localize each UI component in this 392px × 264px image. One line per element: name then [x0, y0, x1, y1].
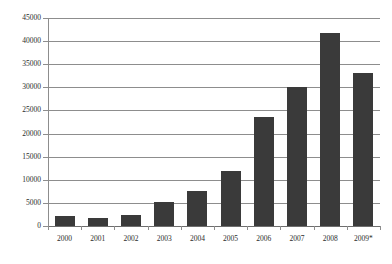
y-axis-tick	[43, 180, 49, 181]
y-axis-label: 15000	[0, 153, 41, 161]
y-axis-tick	[43, 203, 49, 204]
y-axis-tick	[43, 18, 49, 19]
bar	[320, 33, 340, 226]
bar	[88, 218, 108, 226]
x-axis-tick	[247, 226, 248, 230]
bar	[154, 202, 174, 226]
x-axis-label: 2001	[81, 234, 114, 243]
x-axis-label: 2003	[148, 234, 181, 243]
y-axis-label: 20000	[0, 130, 41, 138]
bar	[254, 117, 274, 226]
x-axis-label: 2007	[280, 234, 313, 243]
bar	[121, 215, 141, 226]
y-axis-label: 30000	[0, 83, 41, 91]
y-axis-label: 10000	[0, 176, 41, 184]
x-axis-label: 2004	[181, 234, 214, 243]
y-axis-label: 45000	[0, 14, 41, 22]
x-axis-tick	[181, 226, 182, 230]
y-axis-tick	[43, 64, 49, 65]
x-axis-tick	[81, 226, 82, 230]
x-axis-label: 2006	[247, 234, 280, 243]
x-axis-tick	[314, 226, 315, 230]
x-axis-tick	[214, 226, 215, 230]
x-axis-label: 2005	[214, 234, 247, 243]
y-axis-tick	[43, 110, 49, 111]
y-axis-tick	[43, 157, 49, 158]
x-axis-label: 2009*	[347, 234, 380, 243]
y-axis-tick	[43, 87, 49, 88]
bar	[221, 171, 241, 226]
y-axis-line	[48, 18, 49, 227]
x-axis-tick	[114, 226, 115, 230]
y-axis-tick	[43, 134, 49, 135]
y-axis-label: 35000	[0, 60, 41, 68]
plot-area	[48, 18, 380, 226]
x-axis-tick	[148, 226, 149, 230]
bar-chart: 0500010000150002000025000300003500040000…	[0, 0, 392, 264]
y-axis-label: 40000	[0, 37, 41, 45]
x-axis-label: 2002	[114, 234, 147, 243]
bar	[55, 216, 75, 226]
x-axis-tick	[347, 226, 348, 230]
y-axis-label: 5000	[0, 199, 41, 207]
y-axis-label: 25000	[0, 106, 41, 114]
x-axis-tick	[280, 226, 281, 230]
bar	[287, 87, 307, 226]
x-axis-label: 2000	[48, 234, 81, 243]
x-axis-tick	[380, 226, 381, 230]
x-axis-label: 2008	[314, 234, 347, 243]
bar	[187, 191, 207, 226]
x-axis-tick	[48, 226, 49, 230]
bar	[353, 73, 373, 226]
gridline	[48, 18, 380, 19]
y-axis-label: 0	[0, 222, 41, 230]
y-axis-tick	[43, 41, 49, 42]
